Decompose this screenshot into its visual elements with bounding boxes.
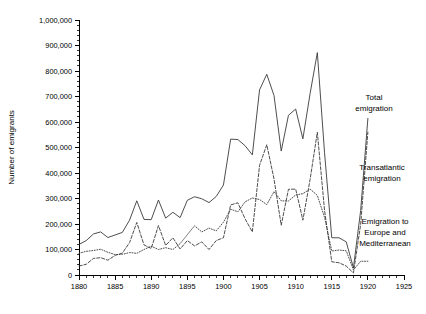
x-tick-label: 1885 [107, 282, 123, 291]
series-line-total-emigration [79, 53, 368, 268]
x-tick-label: 1915 [324, 282, 340, 291]
europe-mediterranean-label: Emigration toEurope andMediterranean [359, 217, 411, 248]
annotation-line: Mediterranean [359, 239, 411, 248]
annotation-line: emigration [363, 174, 400, 183]
y-tick-label: 1,000,000 [39, 16, 72, 25]
annotation-line: Europe and [364, 228, 405, 237]
y-tick-label: 800,000 [45, 67, 72, 76]
y-tick-label: 700,000 [45, 92, 72, 101]
y-tick-label: 0 [68, 271, 72, 280]
total-emigration-label: Totalemigration [355, 93, 392, 113]
y-tick-label: 300,000 [45, 194, 72, 203]
data-series-group [79, 53, 368, 273]
y-tick-label: 200,000 [45, 220, 72, 229]
series-annotations: TotalemigrationTransatlanticemigrationEm… [355, 93, 410, 248]
transatlantic-emigration-label: Transatlanticemigration [359, 163, 405, 183]
x-axis: 1880188518901895190019051910191519201925 [71, 275, 412, 291]
x-tick-label: 1910 [287, 282, 303, 291]
y-axis-title: Number of emigrants [7, 110, 16, 185]
y-axis: 0100,000200,000300,000400,000500,000600,… [39, 16, 79, 280]
x-tick-label: 1880 [71, 282, 87, 291]
x-tick-label: 1925 [396, 282, 412, 291]
annotation-line: emigration [355, 104, 392, 113]
y-tick-label: 100,000 [45, 245, 72, 254]
x-tick-label: 1900 [215, 282, 231, 291]
y-tick-label: 900,000 [45, 41, 72, 50]
y-tick-label: 600,000 [45, 118, 72, 127]
y-tick-label: 400,000 [45, 169, 72, 178]
chart-canvas: 0100,000200,000300,000400,000500,000600,… [0, 0, 426, 314]
annotation-line: Transatlantic [359, 163, 405, 172]
x-tick-label: 1905 [251, 282, 267, 291]
y-tick-label: 500,000 [45, 143, 72, 152]
annotation-line: Total [366, 93, 383, 102]
x-tick-label: 1920 [360, 282, 376, 291]
emigration-line-chart: 0100,000200,000300,000400,000500,000600,… [0, 0, 426, 314]
annotation-line: Emigration to [361, 217, 409, 226]
x-tick-label: 1890 [143, 282, 159, 291]
x-tick-label: 1895 [179, 282, 195, 291]
series-line-emigration-to-europe-and-mediterranean [79, 189, 368, 270]
